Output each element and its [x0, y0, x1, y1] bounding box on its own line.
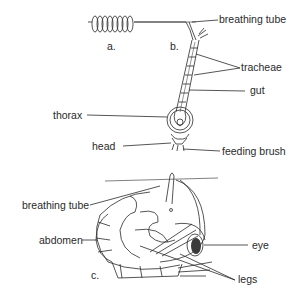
panel-label-b: b. — [170, 41, 179, 52]
label-thorax: thorax — [53, 110, 82, 121]
label-feeding-brush: feeding brush — [222, 146, 286, 157]
label-abdomen: abdomen — [39, 235, 83, 246]
pupa-drawing — [96, 173, 212, 278]
label-eye: eye — [252, 240, 269, 251]
label-legs: legs — [238, 274, 257, 285]
panel-label-c: c. — [91, 270, 99, 281]
label-tracheae: tracheae — [241, 62, 282, 73]
mosquito-larva-pupa-diagram: a. b. c. breathing tube tracheae gut tho… — [0, 0, 303, 301]
label-breathing-tube-larva: breathing tube — [219, 14, 286, 25]
label-breathing-tube-pupa: breathing tube — [22, 200, 89, 211]
label-gut: gut — [250, 85, 265, 96]
label-head: head — [92, 141, 115, 152]
panel-label-a: a. — [107, 41, 116, 52]
egg-coil-drawing — [88, 16, 186, 32]
